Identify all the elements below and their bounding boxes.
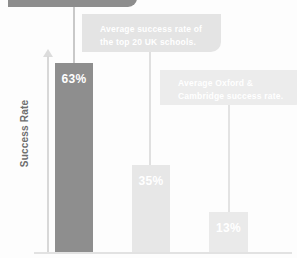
callout-line-2: the top 20 UK schools.: [100, 36, 221, 49]
bar-value-label-2: 35%: [132, 174, 170, 188]
bar-chart: Success Rate 63% 35% 13% Average success…: [0, 0, 297, 258]
callout-connector-3: [228, 105, 230, 213]
y-axis-title: Success Rate: [19, 86, 30, 182]
bar-series-2: 35%: [132, 165, 170, 252]
x-axis-line: [34, 252, 292, 254]
bar-series-3: 13%: [209, 212, 248, 252]
callout-line-1: Average success rate of: [100, 23, 221, 36]
bar-value-label-1: 63%: [55, 72, 93, 86]
y-axis-line: [47, 56, 49, 252]
bar-value-label-3: 13%: [209, 221, 248, 235]
callout-banner-top: [8, 0, 137, 7]
callout-connector-2: [149, 52, 151, 166]
bar-series-1: 63%: [55, 63, 93, 252]
callout-oxbridge-success-rate: Average Oxford & Cambridge success rate.: [160, 70, 297, 105]
callout-line-1: Average Oxford &: [178, 77, 297, 90]
callout-connector-1: [73, 7, 75, 64]
callout-top-20-uk-schools: Average success rate of the top 20 UK sc…: [82, 14, 221, 52]
callout-line-2: Cambridge success rate.: [178, 90, 297, 103]
